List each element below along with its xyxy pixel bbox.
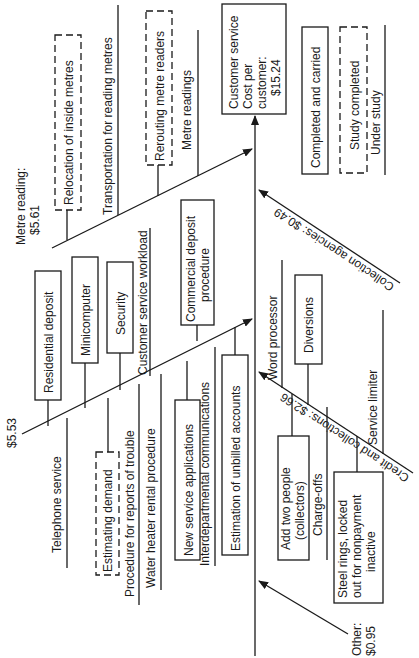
commercial-deposit-label-2: procedure: [198, 248, 212, 302]
legend: Completed and carried Study completed Un…: [302, 25, 385, 175]
legend-under-study-label: Under study: [369, 90, 383, 155]
effect-box: Customer service Cost per customer: $15.…: [222, 4, 286, 114]
steel-rings-label-1: Steel rings, locked: [336, 500, 350, 598]
workload-label: Customer service workload: [136, 230, 150, 375]
effect-line-1: Customer service: [227, 15, 241, 109]
branch-customer-service: $5.53 Residential deposit Minicomputer S…: [5, 200, 252, 605]
residential-deposit-label: Residential deposit: [42, 291, 56, 393]
legend-completed-label: Completed and carried: [309, 47, 323, 168]
metre-readings-label: Metre readings: [180, 70, 194, 150]
steel-rings-label-3: inactive: [364, 531, 378, 572]
word-processor-label: Word processor: [266, 296, 280, 380]
other-label-1: Other:: [350, 623, 364, 656]
charge-offs-label: Charge-offs: [311, 474, 325, 536]
security-label: Security: [114, 292, 128, 335]
water-heater-label: Water heater rental procedure: [144, 428, 158, 588]
relocation-label: Relocation of inside metres: [62, 60, 76, 205]
minicomputer-label: Minicomputer: [79, 284, 93, 356]
fishbone-diagram: Customer service Cost per customer: $15.…: [0, 0, 419, 658]
branch-collection-agencies: Collection agencies: $0.49: [259, 190, 400, 294]
steel-rings-label-2: out for nonpayment: [350, 494, 364, 598]
transportation-label: Transportation for reading metres: [101, 37, 115, 215]
branch-metre-reading: Metre reading: $5.61 Relocation of insid…: [14, 5, 252, 248]
add-two-people-label-2: (collectors): [293, 481, 307, 540]
other-label-2: $0.95: [364, 626, 378, 656]
trouble-procedure-label: Procedure for reports of trouble: [123, 430, 137, 597]
commercial-deposit-label-1: Commercial deposit: [184, 215, 198, 322]
metre-reading-label-1: Metre reading:: [14, 168, 28, 245]
collection-agencies-line: [259, 190, 400, 283]
service-limiter-label: Service limiter: [366, 370, 380, 445]
unbilled-accounts-label: Estimation of unbilled accounts: [229, 386, 243, 551]
customer-service-cost-label: $5.53: [5, 418, 19, 448]
estimating-demand-label: Estimating demand: [101, 469, 115, 572]
new-service-label: New service applications: [182, 424, 196, 556]
collection-agencies-label: Collection agencies: $0.49: [271, 205, 396, 294]
diversions-label: Diversions: [302, 297, 316, 353]
telephone-label: Telephone service: [50, 456, 64, 553]
branch-credit-collections: Credit and collections: $2.66 Word proce…: [259, 260, 413, 603]
metre-reading-label-2: $5.61: [28, 205, 42, 235]
effect-line-4: $15.24: [269, 59, 283, 96]
legend-study-completed-label: Study completed: [348, 61, 362, 150]
interdepartmental-label: Interdepartmental communications: [198, 382, 212, 566]
effect-line-2: Cost per: [241, 64, 255, 109]
add-two-people-label-1: Add two people: [279, 467, 293, 550]
effect-line-3: customer:: [255, 56, 269, 109]
rerouting-label: Rerouting metre readers: [153, 31, 167, 161]
